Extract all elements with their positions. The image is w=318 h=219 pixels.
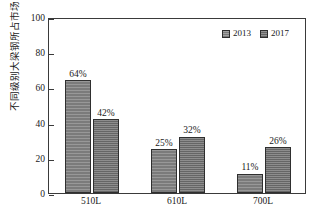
legend-label: 2013 xyxy=(233,29,251,38)
chart-legend: 20132017 xyxy=(222,29,289,38)
bar-2013-700L: 11% xyxy=(237,174,263,193)
bar-2017-610L: 32% xyxy=(179,137,205,193)
y-axis-tick-label: 100 xyxy=(31,14,45,24)
y-axis-title: 不同级别大梁钢所占市场比例/% xyxy=(8,0,22,116)
bar-group: 25%32% xyxy=(151,19,205,193)
x-axis-tick-label-700L: 700L xyxy=(253,197,273,207)
bar-value-label: 11% xyxy=(241,163,258,173)
x-axis-tick-label-610L: 610L xyxy=(167,197,187,207)
bar-2017-700L: 26% xyxy=(265,147,291,193)
plot-area: 020406080100 64%42%25%32%11%26% xyxy=(48,18,306,194)
y-axis-tick: 0 xyxy=(49,195,54,196)
bar-value-label: 25% xyxy=(155,139,172,149)
legend-swatch-icon xyxy=(260,30,268,38)
y-axis-tick-label: 40 xyxy=(36,120,46,130)
bar-group: 64%42% xyxy=(65,19,119,193)
x-axis-tick-label-510L: 510L xyxy=(81,197,101,207)
bar-value-label: 42% xyxy=(97,109,114,119)
legend-item-2017[interactable]: 2017 xyxy=(260,29,289,38)
legend-label: 2017 xyxy=(271,29,289,38)
y-axis-tick-label: 20 xyxy=(36,155,46,165)
y-axis-tick-mark xyxy=(49,195,54,196)
bar-value-label: 64% xyxy=(69,70,86,80)
bar-chart: 不同级别大梁钢所占市场比例/% 020406080100 64%42%25%32… xyxy=(0,0,318,219)
bar-2017-510L: 42% xyxy=(93,119,119,193)
y-axis-tick-label: 0 xyxy=(40,190,45,200)
y-axis-tick-label: 60 xyxy=(36,85,46,95)
y-axis-tick-label: 80 xyxy=(36,49,46,59)
bar-group: 11%26% xyxy=(237,19,291,193)
legend-item-2013[interactable]: 2013 xyxy=(222,29,251,38)
legend-swatch-icon xyxy=(222,30,230,38)
bar-value-label: 26% xyxy=(269,137,286,147)
bar-2013-610L: 25% xyxy=(151,149,177,193)
bar-value-label: 32% xyxy=(183,126,200,136)
bar-2013-510L: 64% xyxy=(65,80,91,193)
bars-layer: 64%42%25%32%11%26% xyxy=(49,19,305,193)
